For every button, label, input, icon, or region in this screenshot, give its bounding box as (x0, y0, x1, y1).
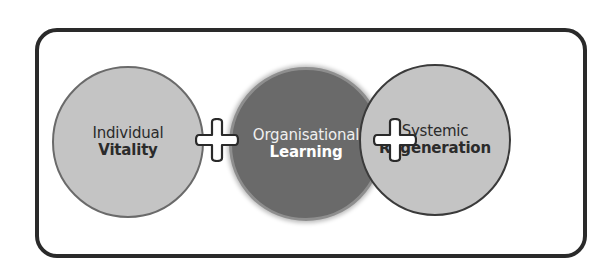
node-label-line1: Organisational (253, 127, 359, 144)
plus-icon (195, 118, 239, 162)
node-label-line1: Individual (92, 125, 163, 142)
node-label-line2: Vitality (98, 142, 157, 159)
node-individual-vitality: Individual Vitality (52, 66, 204, 218)
plus-icon (373, 118, 417, 162)
node-label-line2: Learning (270, 144, 343, 161)
